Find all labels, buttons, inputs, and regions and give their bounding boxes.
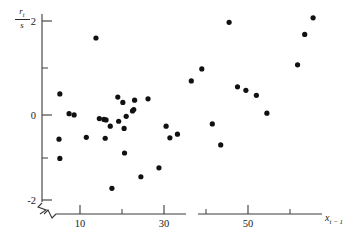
x-tick-labels: 10 30 50 <box>75 218 254 229</box>
data-point <box>189 78 194 83</box>
data-point <box>218 142 223 147</box>
data-point <box>254 93 259 98</box>
data-point <box>156 165 161 170</box>
data-point <box>108 124 113 129</box>
data-point <box>93 35 98 40</box>
data-point <box>210 121 215 126</box>
data-point <box>227 20 232 25</box>
y-tick-label-neg2: -2 <box>27 195 36 206</box>
x-tick-label-50: 50 <box>243 218 254 229</box>
data-point <box>116 119 121 124</box>
data-point <box>145 96 150 101</box>
data-point <box>122 150 127 155</box>
y-axis-label-denominator: s <box>9 21 35 30</box>
data-point <box>84 135 89 140</box>
y-tick-label-0: 0 <box>31 110 36 121</box>
scatter-plot-figure: 2 0 -2 10 30 50 rt s xt − 1 <box>0 0 359 246</box>
data-point <box>57 91 62 96</box>
data-point <box>311 15 316 20</box>
data-point <box>264 111 269 116</box>
data-point <box>109 186 114 191</box>
x-tick-label-10: 10 <box>75 218 86 229</box>
y-axis-label: rt s <box>9 7 35 30</box>
data-point <box>164 124 169 129</box>
data-points-layer <box>56 15 315 191</box>
plot-canvas: 2 0 -2 10 30 50 <box>0 0 359 246</box>
data-point <box>302 32 307 37</box>
y-axis-label-numerator: rt <box>9 7 35 19</box>
data-point <box>243 88 248 93</box>
data-point <box>138 174 143 179</box>
data-point <box>167 135 172 140</box>
data-point <box>56 137 61 142</box>
data-point <box>199 66 204 71</box>
data-point <box>103 136 108 141</box>
data-point <box>72 112 77 117</box>
data-point <box>295 62 300 67</box>
data-point <box>124 114 129 119</box>
data-point <box>115 94 120 99</box>
data-point <box>122 126 127 131</box>
data-point <box>57 156 62 161</box>
data-point <box>235 84 240 89</box>
x-tick-label-30: 30 <box>159 218 170 229</box>
x-axis <box>44 205 322 218</box>
data-point <box>120 100 125 105</box>
x-axis-label-sub: t − 1 <box>329 218 343 226</box>
x-axis-label: xt − 1 <box>325 212 343 226</box>
data-point <box>66 111 71 116</box>
data-point <box>131 107 136 112</box>
y-tick-labels: 2 0 -2 <box>27 16 36 206</box>
data-point <box>103 117 108 122</box>
data-point <box>132 98 137 103</box>
data-point <box>97 116 102 121</box>
y-axis <box>38 14 52 214</box>
data-point <box>175 132 180 137</box>
